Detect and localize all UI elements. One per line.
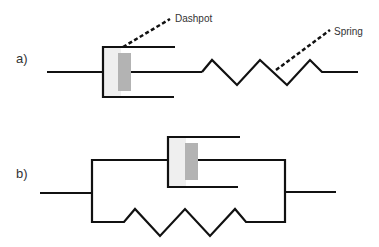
spring-callout-line [276, 30, 330, 70]
spring-a [202, 60, 358, 85]
panel-b-label: b) [16, 166, 28, 181]
dashpot-a [47, 47, 202, 97]
viscoelastic-models-diagram: a) Dashpot Spring b) [0, 0, 379, 247]
dashpot-b-fluid [169, 138, 186, 186]
dashpot-a-piston [118, 53, 131, 91]
dashpot-b-piston [185, 143, 198, 180]
spring-callout-label: Spring [334, 26, 363, 37]
spring-b [92, 209, 285, 236]
dashpot-b [168, 137, 286, 187]
panel-a-label: a) [16, 51, 28, 66]
panel-b: b) [16, 137, 336, 236]
dashpot-callout-line [123, 19, 170, 47]
dashpot-callout-label: Dashpot [175, 13, 212, 24]
panel-a: a) Dashpot Spring [16, 13, 363, 97]
